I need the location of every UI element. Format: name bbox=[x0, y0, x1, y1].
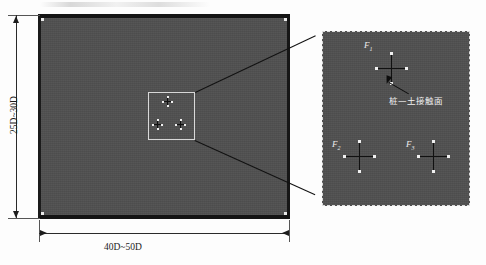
pile-node bbox=[167, 96, 169, 98]
dim-arrow-up bbox=[13, 16, 19, 23]
force-label-f1: F1 bbox=[364, 40, 373, 52]
dim-arrow-down bbox=[13, 211, 19, 218]
dim-extension-bottom bbox=[8, 218, 40, 219]
dim-arrow-right bbox=[40, 230, 47, 236]
force-label-f3: F3 bbox=[406, 139, 415, 151]
scan-artifact bbox=[40, 2, 210, 7]
pile-node bbox=[152, 124, 154, 126]
force-label-f2: F2 bbox=[332, 139, 341, 151]
pile-node bbox=[375, 67, 378, 70]
pile-axis-horizontal bbox=[419, 156, 448, 157]
pile-node bbox=[417, 155, 420, 158]
figure-canvas: F1 F2 F3 桩—土接触面 bbox=[0, 0, 486, 265]
dim-line-horizontal bbox=[39, 233, 289, 234]
pile-node bbox=[373, 155, 376, 158]
block-corner-marker bbox=[284, 18, 287, 21]
pile-node bbox=[161, 124, 163, 126]
pile-axis-horizontal bbox=[377, 68, 406, 69]
pile-node bbox=[157, 128, 159, 130]
dim-label-horizontal: 40D~50D bbox=[104, 242, 142, 252]
detail-soil-texture bbox=[323, 32, 469, 205]
block-corner-marker bbox=[41, 18, 44, 21]
pile-node bbox=[175, 124, 177, 126]
dim-extension-right bbox=[289, 220, 290, 242]
pile-soil-interface-label: 桩—土接触面 bbox=[389, 94, 443, 106]
block-corner-marker bbox=[284, 212, 287, 215]
inset-highlight-box bbox=[148, 92, 195, 140]
pile-node bbox=[180, 128, 182, 130]
pile-node bbox=[162, 101, 164, 103]
pile-node bbox=[447, 155, 450, 158]
annotation-leader-line bbox=[389, 82, 409, 94]
pile-node bbox=[157, 119, 159, 121]
pile-node bbox=[432, 140, 435, 143]
detail-panel: F1 F2 F3 桩—土接触面 bbox=[322, 31, 470, 206]
pile-node bbox=[390, 52, 393, 55]
dim-arrow-left bbox=[282, 230, 289, 236]
pile-node bbox=[432, 170, 435, 173]
block-corner-marker bbox=[41, 212, 44, 215]
pile-node bbox=[358, 170, 361, 173]
pile-node bbox=[180, 119, 182, 121]
pile-node bbox=[167, 105, 169, 107]
pile-node bbox=[343, 155, 346, 158]
pile-node bbox=[171, 101, 173, 103]
pile-node bbox=[184, 124, 186, 126]
pile-node bbox=[405, 67, 408, 70]
pile-axis-horizontal bbox=[345, 156, 374, 157]
pile-node bbox=[358, 140, 361, 143]
dim-label-vertical: 25D~30D bbox=[9, 85, 19, 145]
